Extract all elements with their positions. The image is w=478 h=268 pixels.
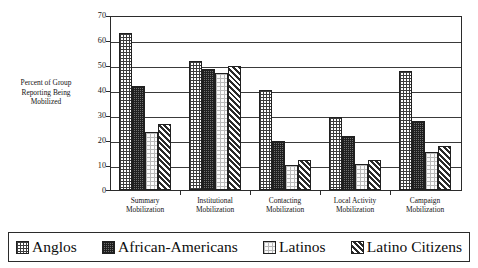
bar-group-campaign-mobilization: [395, 17, 461, 190]
bar-group-institutional-mobilization: [185, 17, 251, 190]
bar-chart-figure: Percent of Group Reporting Being Mobiliz…: [0, 0, 478, 268]
y-axis-title-line-1: Percent of Group: [6, 78, 86, 88]
y-tick-label-50: 50: [84, 62, 106, 70]
bar-local-activity-latino-citizens: [368, 160, 381, 190]
y-tick-label-20: 20: [84, 137, 106, 145]
legend-label-african-americans: African-Americans: [118, 239, 238, 255]
bar-group-local-activity-mobilization: [325, 17, 391, 190]
legend-swatch-african-americans-icon: [102, 241, 115, 254]
bar-local-activity-anglos: [329, 117, 342, 190]
legend-label-latinos: Latinos: [279, 239, 326, 255]
plot-area: [110, 16, 462, 191]
x-tick-mark-4: [390, 191, 391, 195]
legend-item-latinos[interactable]: Latinos: [263, 239, 326, 255]
x-axis-label-campaign-line-2: Mobilization: [382, 205, 468, 214]
y-axis-title: Percent of Group Reporting Being Mobiliz…: [6, 78, 86, 107]
bar-contacting-african-americans: [272, 141, 285, 190]
bar-campaign-anglos: [399, 71, 412, 190]
bar-group-contacting-mobilization: [255, 17, 321, 190]
legend-swatch-latino-citizens-icon: [351, 241, 364, 254]
bar-campaign-latinos: [425, 152, 438, 190]
bar-group-summary-mobilization: [115, 17, 181, 190]
legend-item-anglos[interactable]: Anglos: [16, 239, 77, 255]
bar-campaign-african-americans: [412, 121, 425, 190]
bar-campaign-latino-citizens: [438, 146, 451, 190]
bar-summary-latino-citizens: [158, 124, 171, 190]
y-tick-label-10: 10: [84, 162, 106, 170]
bar-institutional-anglos: [189, 61, 202, 190]
y-tick-label-0: 0: [84, 187, 106, 195]
y-tick-label-60: 60: [84, 37, 106, 45]
bar-contacting-latino-citizens: [298, 160, 311, 190]
bar-contacting-anglos: [259, 90, 272, 190]
bar-local-activity-african-americans: [342, 136, 355, 190]
x-axis-label-campaign-mobilization: Campaign Mobilization: [382, 196, 468, 215]
bar-summary-latinos: [145, 132, 158, 190]
x-tick-mark-3: [320, 191, 321, 195]
bar-summary-anglos: [119, 33, 132, 190]
legend-swatch-latinos-icon: [263, 241, 276, 254]
y-tick-label-40: 40: [84, 87, 106, 95]
legend-label-latino-citizens: Latino Citizens: [367, 239, 462, 255]
legend-swatch-anglos-icon: [16, 241, 29, 254]
bar-institutional-latinos: [215, 73, 228, 190]
legend-item-latino-citizens[interactable]: Latino Citizens: [351, 239, 462, 255]
y-tick-label-70: 70: [84, 12, 106, 20]
bar-summary-african-americans: [132, 86, 145, 190]
bar-local-activity-latinos: [355, 164, 368, 190]
y-tick-label-30: 30: [84, 112, 106, 120]
y-axis-title-line-3: Mobilized: [6, 97, 86, 107]
legend-item-african-americans[interactable]: African-Americans: [102, 239, 238, 255]
x-axis-label-campaign-line-1: Campaign: [382, 196, 468, 205]
bar-institutional-latino-citizens: [228, 66, 241, 190]
x-tick-mark-1: [180, 191, 181, 195]
chart-legend: Anglos African-Americans Latinos Latino …: [8, 232, 470, 262]
x-tick-mark-2: [250, 191, 251, 195]
y-axis-title-line-2: Reporting Being: [6, 88, 86, 98]
bar-contacting-latinos: [285, 165, 298, 190]
bar-institutional-african-americans: [202, 69, 215, 190]
legend-label-anglos: Anglos: [32, 239, 77, 255]
